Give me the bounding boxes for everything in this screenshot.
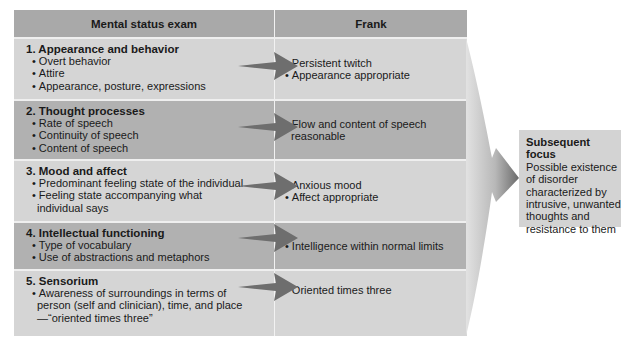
criteria-item: Rate of speech bbox=[26, 117, 274, 129]
exam-criteria-cell: 5. Sensorium Awareness of surroundings i… bbox=[14, 270, 274, 336]
exam-criteria-cell: 3. Mood and affect Predominant feeling s… bbox=[14, 160, 274, 222]
header-frank: Frank bbox=[275, 10, 467, 38]
finding-item: Anxious mood bbox=[285, 179, 467, 191]
criteria-item: Continuity of speech bbox=[26, 129, 274, 141]
row-divider bbox=[14, 269, 467, 271]
focus-body: Possible existence of disorder character… bbox=[526, 161, 621, 235]
criteria-item: Attire bbox=[26, 67, 274, 79]
row-title: 1. Appearance and behavior bbox=[26, 43, 274, 55]
row-divider bbox=[14, 37, 467, 39]
row-title: 5. Sensorium bbox=[26, 275, 274, 287]
arrow-right-icon bbox=[238, 273, 300, 301]
finding-item: Persistent twitch bbox=[285, 57, 467, 69]
focus-title: Subsequent focus bbox=[526, 136, 621, 161]
criteria-item: Content of speech bbox=[26, 142, 274, 154]
arrow-right-icon bbox=[238, 224, 300, 252]
criteria-item: Predominant feeling state of the individ… bbox=[26, 177, 274, 189]
header-mental-status-exam: Mental status exam bbox=[14, 10, 274, 38]
row-title: 3. Mood and affect bbox=[26, 165, 274, 177]
criteria-item: Use of abstractions and metaphors bbox=[26, 251, 274, 263]
row-divider bbox=[14, 159, 467, 161]
exam-criteria-cell: 1. Appearance and behavior Overt behavio… bbox=[14, 38, 274, 100]
finding-cell: Persistent twitch Appearance appropriate bbox=[275, 38, 467, 100]
row-divider bbox=[14, 221, 467, 223]
exam-criteria-cell: 4. Intellectual functioning Type of voca… bbox=[14, 222, 274, 270]
row-divider bbox=[14, 99, 467, 101]
row-title: 4. Intellectual functioning bbox=[26, 227, 274, 239]
finding-item: Flow and content of speech reasonable bbox=[285, 118, 427, 142]
subsequent-focus-box: Subsequent focus Possible existence of d… bbox=[519, 130, 621, 227]
finding-cell: Flow and content of speech reasonable bbox=[275, 100, 467, 160]
criteria-item: Overt behavior bbox=[26, 55, 274, 67]
arrow-right-icon bbox=[238, 52, 300, 80]
finding-item: Affect appropriate bbox=[285, 191, 467, 203]
finding-cell: Oriented times three bbox=[275, 270, 467, 336]
finding-item: Appearance appropriate bbox=[285, 69, 467, 81]
funnel-arrow-icon bbox=[466, 36, 522, 338]
finding-item: Intelligence within normal limits bbox=[285, 240, 467, 252]
criteria-item: Appearance, posture, expressions bbox=[26, 80, 274, 92]
arrow-right-icon bbox=[238, 172, 300, 200]
arrow-right-icon bbox=[238, 113, 300, 141]
criteria-item: Awareness of surroundings in terms of pe… bbox=[26, 287, 274, 324]
finding-cell: Anxious mood Affect appropriate bbox=[275, 160, 467, 222]
finding-item: Oriented times three bbox=[285, 284, 467, 296]
criteria-item: Feeling state accompanying what individu… bbox=[26, 189, 274, 213]
finding-cell: Intelligence within normal limits bbox=[275, 222, 467, 270]
row-title: 2. Thought processes bbox=[26, 105, 274, 117]
criteria-item: Type of vocabulary bbox=[26, 239, 274, 251]
exam-criteria-cell: 2. Thought processes Rate of speech Cont… bbox=[14, 100, 274, 160]
